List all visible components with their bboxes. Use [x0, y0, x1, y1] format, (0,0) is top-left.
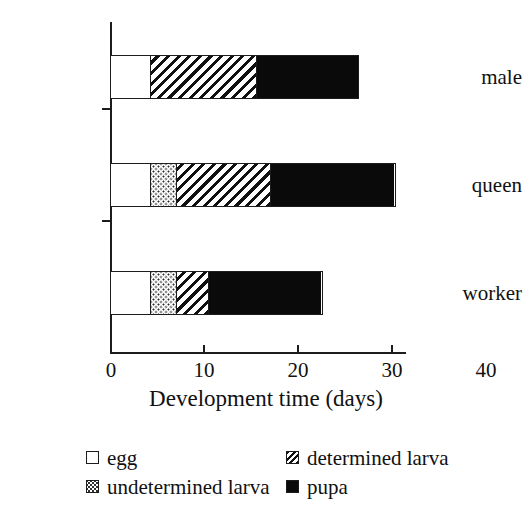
x-axis-title: Development time (days) [0, 385, 532, 413]
bar-male [110, 55, 359, 99]
bar-segment-male-egg [111, 56, 150, 98]
bar-worker [110, 271, 323, 315]
legend-swatch-egg-icon [86, 451, 99, 464]
x-tick-label-10: 10 [194, 357, 215, 383]
x-axis-tick-10 [203, 345, 205, 354]
bar-segment-worker-determined-larva [176, 272, 208, 314]
x-tick-label-20: 20 [288, 357, 309, 383]
legend-swatch-determined-larva-icon [286, 451, 299, 464]
legend-label-egg: egg [107, 446, 137, 470]
bar-queen [110, 163, 396, 207]
y-category-label-worker: worker [432, 281, 532, 305]
legend-item-pupa: pupa [286, 475, 348, 499]
bar-segment-queen-pupa [270, 164, 394, 206]
legend-label-determined-larva: determined larva [307, 446, 449, 470]
x-tick-label-0: 0 [106, 357, 117, 383]
legend-item-undetermined-larva: undetermined larva [86, 475, 286, 499]
legend-swatch-pupa-icon [286, 480, 299, 493]
bar-segment-queen-undetermined-larva [150, 164, 176, 206]
bar-segment-queen-egg [111, 164, 150, 206]
legend-swatch-undetermined-larva-icon [86, 480, 99, 493]
bar-segment-worker-pupa [208, 272, 321, 314]
y-axis-tick-2 [102, 220, 111, 222]
y-category-label-queen: queen [432, 173, 532, 197]
x-axis-tick-30 [391, 345, 393, 354]
y-category-label-male: male [432, 65, 532, 89]
legend-item-egg: egg [86, 446, 286, 470]
y-axis-tick-1 [102, 108, 111, 110]
x-tick-label-30: 30 [382, 357, 403, 383]
chart-legend: egg determined larva undetermined larva … [86, 443, 486, 501]
x-axis-tick-20 [297, 345, 299, 354]
bar-segment-worker-egg [111, 272, 150, 314]
development-time-chart: 0 10 20 30 40 male queen worker Developm… [0, 0, 532, 510]
x-axis-tick-0 [110, 345, 112, 354]
legend-label-pupa: pupa [307, 475, 348, 499]
x-tick-label-40: 40 [476, 357, 497, 383]
x-axis-line [110, 352, 406, 354]
legend-label-undetermined-larva: undetermined larva [107, 475, 270, 499]
bar-segment-queen-determined-larva [176, 164, 270, 206]
bar-segment-male-pupa [256, 56, 358, 98]
bar-segment-male-determined-larva [150, 56, 256, 98]
legend-item-determined-larva: determined larva [286, 446, 449, 470]
bar-segment-worker-undetermined-larva [150, 272, 176, 314]
